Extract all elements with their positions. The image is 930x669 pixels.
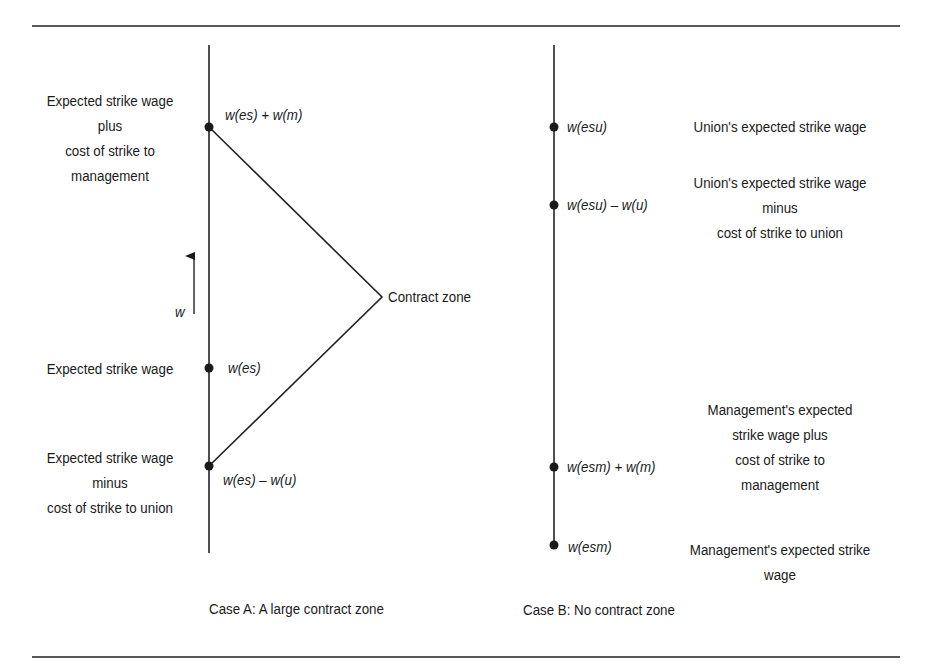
- case-a-math-es-plus-m: w(es) + w(m): [225, 105, 302, 125]
- case-b-desc-esm-plus-m: Management's expected strike wage plus c…: [670, 397, 890, 497]
- case-b-math-esu: w(esu): [567, 117, 607, 137]
- case-a-point-es-plus-m: [205, 123, 214, 132]
- desc-line: management: [33, 163, 188, 188]
- desc-line: strike wage plus: [685, 422, 874, 447]
- desc-line: Management's expected: [685, 397, 874, 422]
- desc-line: cost of strike to union: [33, 495, 188, 520]
- desc-line: plus: [33, 113, 188, 138]
- case-b-caption: Case B: No contract zone: [523, 600, 675, 620]
- case-a-desc-es-minus-u: Expected strike wage minus cost of strik…: [20, 445, 200, 520]
- desc-line: cost of strike to: [33, 138, 188, 163]
- case-b-point-esm: [550, 541, 559, 550]
- wage-axis-label: w: [175, 302, 185, 322]
- desc-line: cost of strike to: [685, 447, 874, 472]
- case-b-point-esm-plus-m: [550, 463, 559, 472]
- desc-line: Union's expected strike wage: [685, 170, 874, 195]
- desc-line: management: [685, 472, 874, 497]
- case-a-point-es: [205, 364, 214, 373]
- case-b-math-esm: w(esm): [568, 537, 612, 557]
- case-b-desc-esm: Management's expected strike wage: [660, 537, 900, 587]
- desc-line: minus: [685, 195, 874, 220]
- case-a-point-es-minus-u: [205, 462, 214, 471]
- desc-line: minus: [33, 470, 188, 495]
- case-b-math-esu-minus-u: w(esu) – w(u): [567, 195, 648, 215]
- desc-line: Management's expected strike: [677, 537, 883, 562]
- case-b-desc-esu: Union's expected strike wage: [670, 114, 890, 139]
- desc-line: Expected strike wage: [33, 445, 188, 470]
- desc-line: Expected strike wage: [33, 88, 188, 113]
- contract-zone-bracket: [209, 127, 382, 466]
- desc-line: Union's expected strike wage: [685, 114, 874, 139]
- case-a-desc-es-plus-m: Expected strike wage plus cost of strike…: [20, 88, 200, 188]
- desc-line: wage: [677, 562, 883, 587]
- case-a-desc-es: Expected strike wage: [20, 356, 200, 381]
- case-b-point-esu-minus-u: [550, 201, 559, 210]
- case-a-math-es-minus-u: w(es) – w(u): [223, 470, 296, 490]
- case-b-math-esm-plus-m: w(esm) + w(m): [567, 457, 655, 477]
- desc-line: cost of strike to union: [685, 220, 874, 245]
- case-a-caption: Case A: A large contract zone: [209, 599, 384, 619]
- case-b-desc-esu-minus-u: Union's expected strike wage minus cost …: [670, 170, 890, 245]
- desc-line: Expected strike wage: [33, 356, 188, 381]
- contract-zone-label: Contract zone: [388, 287, 471, 307]
- case-b-point-esu: [550, 123, 559, 132]
- case-a-math-es: w(es): [228, 358, 261, 378]
